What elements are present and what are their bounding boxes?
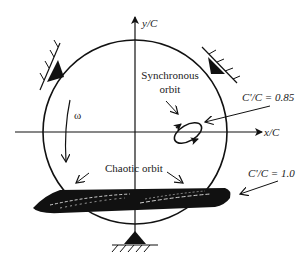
chaotic-pointer-left (76, 173, 89, 183)
y-axis-label: y/C (142, 18, 157, 29)
omega-label: ω (74, 110, 81, 121)
clearance-10-pointer (240, 181, 278, 194)
chaotic-pointer-right (167, 172, 183, 183)
synchronous-label-line2: orbit (138, 84, 202, 95)
synchronous-orbit (171, 119, 205, 148)
rotor-bearing-diagram (0, 0, 307, 262)
rotation-arrow (66, 100, 71, 162)
chaotic-orbit (33, 188, 230, 213)
clearance-10-label: C'/C = 1.0 (248, 168, 295, 179)
support-top-right (202, 47, 240, 83)
synchronous-pointer (166, 101, 178, 114)
synchronous-label-line1: Synchronous (138, 70, 202, 81)
clearance-085-pointer (205, 106, 270, 122)
support-top-left (40, 40, 64, 90)
support-bottom (112, 231, 158, 252)
chaotic-orbit-label: Chaotic orbit (105, 163, 163, 174)
x-axis-label: x/C (264, 127, 279, 138)
clearance-085-label: C'/C = 0.85 (242, 92, 294, 103)
